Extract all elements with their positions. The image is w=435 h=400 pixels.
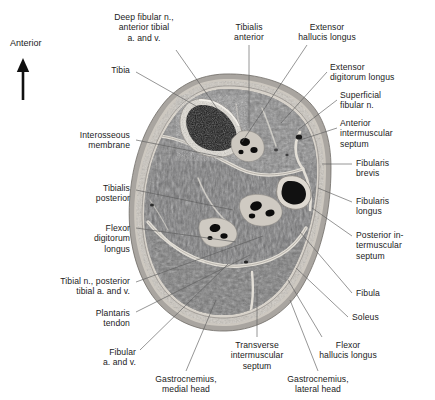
label-plantaris-tendon: Plantaris tendon (52, 308, 130, 329)
label-soleus: Soleus (352, 312, 414, 322)
label-extensor-hallucis-longus: Extensor hallucis longus (286, 22, 368, 43)
label-posterior-intermuscular-septum: Posterior in- termuscular septum (356, 230, 435, 261)
label-tibia: Tibia (60, 65, 130, 75)
label-tibial-n-posterior-tibial: Tibial n., posterior tibial a. and v. (16, 276, 130, 297)
label-interosseous-membrane: Interosseous membrane (26, 130, 130, 151)
label-fibula: Fibula (356, 288, 418, 298)
label-gastrocnemius-lateral-head: Gastrocnemius, lateral head (272, 374, 364, 395)
anatomical-figure: Anterior Deep fibular n., anterior tibia… (0, 0, 435, 400)
label-flexor-hallucis-longus: Flexor hallucis longus (305, 340, 391, 361)
label-transverse-intermuscular-septum: Transverse intermuscular septum (216, 340, 298, 371)
label-extensor-digitorum-longus: Extensor digitorum longus (330, 62, 432, 83)
label-deep-fibular-n: Deep fibular n., anterior tibial a. and … (102, 12, 186, 43)
label-flexor-digitorum-longus: Flexor digitorum longus (44, 223, 130, 254)
label-fibularis-longus: Fibularis longus (356, 196, 430, 217)
label-tibialis-posterior: Tibialis posterior (44, 183, 130, 204)
label-gastrocnemius-medial-head: Gastrocnemius, medial head (140, 374, 232, 395)
label-tibialis-anterior: Tibialis anterior (222, 22, 276, 43)
label-anterior-intermuscular-septum: Anterior intermuscular septum (340, 118, 432, 149)
label-fibular-a-and-v: Fibular a. and v. (66, 347, 136, 368)
label-fibularis-brevis: Fibularis brevis (356, 158, 430, 179)
label-superficial-fibular-n: Superficial fibular n. (340, 90, 428, 111)
